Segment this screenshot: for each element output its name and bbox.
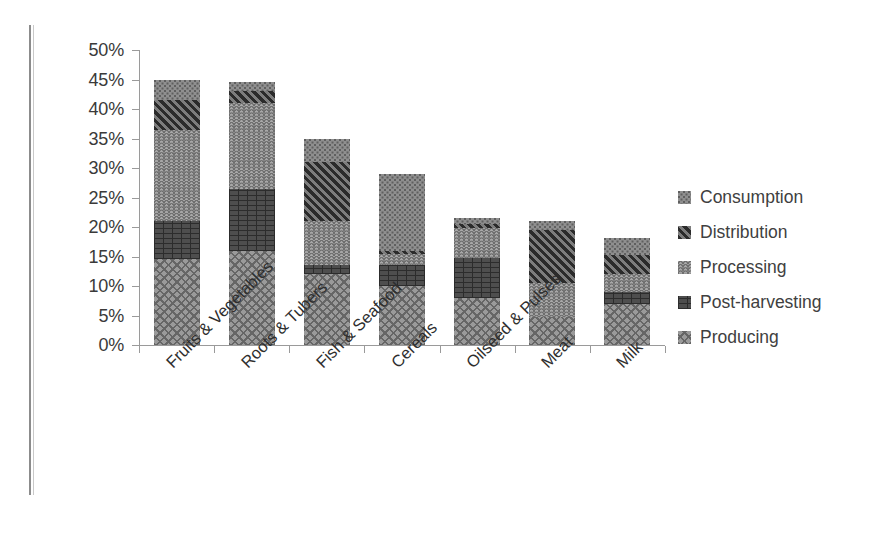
- processing-swatch-icon: [678, 261, 691, 274]
- legend-item[interactable]: Consumption: [678, 180, 873, 215]
- x-axis-category-label: Meat: [538, 333, 576, 371]
- postharvesting-swatch-icon: [678, 296, 691, 309]
- x-axis-category-label: Cereals: [388, 319, 440, 371]
- legend-item[interactable]: Distribution: [678, 215, 873, 250]
- legend-item[interactable]: Processing: [678, 250, 873, 285]
- legend-item-label: Producing: [700, 329, 779, 347]
- legend-item-label: Post-harvesting: [700, 294, 822, 312]
- legend-item-label: Distribution: [700, 224, 788, 242]
- chart-canvas: 50%45%40%35%30%25%20%15%10%5%0% Fruits &…: [0, 0, 879, 552]
- legend-item-label: Processing: [700, 259, 787, 277]
- distribution-swatch-icon: [678, 226, 691, 239]
- legend-item[interactable]: Producing: [678, 320, 873, 355]
- producing-swatch-icon: [678, 331, 691, 344]
- legend-item[interactable]: Post-harvesting: [678, 285, 873, 320]
- chart-legend: ConsumptionDistributionProcessingPost-ha…: [678, 180, 873, 355]
- legend-item-label: Consumption: [700, 189, 803, 207]
- consumption-swatch-icon: [678, 191, 691, 204]
- x-axis-category-label: Milk: [613, 338, 645, 370]
